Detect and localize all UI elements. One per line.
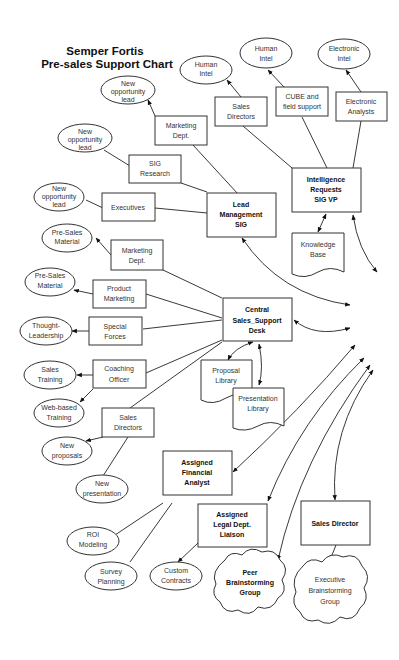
node-label: Management <box>220 211 263 219</box>
node-label: Financial <box>182 469 212 476</box>
node-label: Custom <box>164 567 188 574</box>
node-label: opportunity <box>68 136 103 144</box>
node-label: Brainstorming <box>308 587 351 595</box>
node-label: Group <box>240 589 261 597</box>
node-label: Research <box>140 170 170 177</box>
node-custom-contracts[interactable]: Custom Contracts <box>150 562 202 590</box>
node-label: Proposal <box>212 367 240 375</box>
node-label: Liaison <box>220 531 245 538</box>
node-web-based-training[interactable]: Web-based Training <box>34 399 84 427</box>
node-label: New <box>60 442 75 449</box>
node-survey-planning[interactable]: Survey Planning <box>85 562 137 590</box>
edge-central-presentation <box>259 344 262 385</box>
edge-salesdir-to-intel <box>243 126 292 168</box>
node-label: Executives <box>111 204 145 211</box>
node-peer-brainstorming-group[interactable]: Peer Brainstorming Group <box>214 549 286 613</box>
node-label: Central <box>245 306 269 313</box>
edge-marketing-to-leadmgmt <box>193 145 238 194</box>
node-special-forces[interactable]: Special Forces <box>89 317 142 345</box>
edge-special-to-central <box>143 320 222 329</box>
node-label: Executive <box>315 576 345 583</box>
edge-salesdir-bottom-to-proposals <box>86 437 103 441</box>
node-label: field support <box>283 103 321 111</box>
node-product-marketing[interactable]: Product Marketing <box>93 280 146 308</box>
node-intelligence-requests[interactable]: Intelligence Requests SIG VP <box>292 168 361 212</box>
node-lead-management-sig[interactable]: Lead Management SIG <box>207 193 276 237</box>
node-shape <box>89 317 142 345</box>
node-cube-field-support[interactable]: CUBE and field support <box>276 87 328 116</box>
node-label: Thought- <box>32 322 61 330</box>
node-label: Forces <box>104 333 126 340</box>
edge-salesdir-to-humanintel1 <box>227 80 241 97</box>
node-sales-director[interactable]: Sales Director <box>301 501 370 545</box>
node-label: Dept. <box>129 257 146 265</box>
node-shape <box>215 97 267 126</box>
node-label: New <box>78 128 93 135</box>
node-pre-sales-material-1[interactable]: Pre-Sales Material <box>42 224 92 252</box>
node-label: lead <box>121 96 134 103</box>
node-executives[interactable]: Executives <box>102 193 155 221</box>
node-label: Brainstorming <box>226 579 274 587</box>
node-sales-training[interactable]: Sales Training <box>24 361 76 389</box>
node-knowledge-base[interactable]: Knowledge Base <box>292 233 344 277</box>
node-assigned-legal-liaison[interactable]: Assigned Legal Dept. Liaison <box>198 504 267 547</box>
edge-salesdir-bottom-to-presentation <box>103 437 128 476</box>
node-marketing-dept-top[interactable]: Marketing Dept. <box>155 116 207 145</box>
node-electronic-intel[interactable]: Electronic Intel <box>318 39 370 69</box>
node-label: Human <box>195 61 218 68</box>
node-label: Leadership <box>29 332 64 340</box>
node-shape <box>318 39 370 69</box>
node-presentation-library[interactable]: Presentation Library <box>233 388 284 430</box>
node-electronic-analysts[interactable]: Electronic Analysts <box>336 92 387 121</box>
node-new-proposals[interactable]: New proposals <box>42 437 92 465</box>
node-new-opportunity-lead-1[interactable]: New opportunity lead <box>101 76 155 104</box>
node-label: New <box>95 480 110 487</box>
edge-financial-to-roi <box>112 503 163 537</box>
edge-cube-to-humanintel2 <box>268 70 284 87</box>
node-new-opportunity-lead-3[interactable]: New opportunity lead <box>34 183 84 211</box>
node-new-opportunity-lead-2[interactable]: New opportunity lead <box>58 124 112 152</box>
node-label: Pre-Sales <box>52 229 83 236</box>
node-sales-directors-top[interactable]: Sales Directors <box>215 97 267 126</box>
node-label: Directors <box>114 424 143 431</box>
node-label: Coaching <box>104 365 134 373</box>
node-label: Intel <box>337 55 351 62</box>
node-label: Intelligence <box>307 176 346 184</box>
node-label: Peer <box>242 569 257 576</box>
node-label: Sales <box>41 366 59 373</box>
node-label: Material <box>55 238 80 245</box>
node-label: Survey <box>100 568 122 576</box>
node-label: Sales_Support <box>232 317 282 325</box>
node-label: Material <box>38 282 63 289</box>
node-human-intel-2[interactable]: Human Intel <box>240 38 292 68</box>
node-label: Electronic <box>329 45 360 52</box>
node-label: ROI <box>87 531 100 538</box>
node-sig-research[interactable]: SIG Research <box>129 155 181 183</box>
edge-pre-sales1-to-marketing <box>96 238 111 255</box>
node-sales-directors-bottom[interactable]: Sales Directors <box>102 408 154 437</box>
node-label: New <box>52 185 67 192</box>
node-label: Directors <box>227 113 256 120</box>
node-roi-modeling[interactable]: ROI Modeling <box>67 527 119 555</box>
edge-intel-knowledgebase <box>318 214 326 232</box>
node-label: Dept. <box>173 132 190 140</box>
node-shape <box>155 116 207 145</box>
cloud-nodes: Peer Brainstorming Group Executive Brain… <box>214 549 368 623</box>
node-coaching-officer[interactable]: Coaching Officer <box>93 360 146 388</box>
node-label: Library <box>247 405 269 413</box>
edge-right-salesdirector <box>334 370 373 500</box>
node-human-intel-1[interactable]: Human Intel <box>180 56 232 84</box>
node-label: Sales <box>232 103 250 110</box>
edge-product-to-pre-sales2 <box>74 290 93 294</box>
node-new-presentation[interactable]: New presentation <box>76 475 128 503</box>
node-pre-sales-material-2[interactable]: Pre-Sales Material <box>25 268 75 296</box>
node-executive-brainstorming-group[interactable]: Executive Brainstorming Group <box>294 555 368 623</box>
edge-marketing-mid-to-central <box>163 270 222 298</box>
edge-executives-to-leadmgmt <box>155 208 207 213</box>
node-marketing-dept-mid[interactable]: Marketing Dept. <box>111 240 163 270</box>
node-assigned-financial-analyst[interactable]: Assigned Financial Analyst <box>163 451 232 495</box>
node-thought-leadership[interactable]: Thought- Leadership <box>20 317 72 345</box>
node-label: Modeling <box>79 541 108 549</box>
node-central-sales-support-desk[interactable]: Central Sales_Support Desk <box>223 298 292 341</box>
hub-nodes: Lead Management SIG Intelligence Request… <box>163 168 370 547</box>
